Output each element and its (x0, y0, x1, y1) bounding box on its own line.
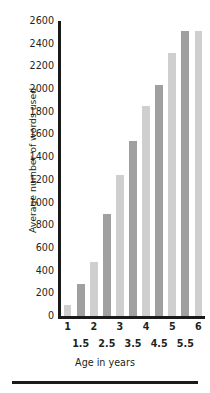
x-axis-title: Age in years (0, 357, 210, 368)
y-axis-tick-label: 800 (14, 220, 54, 230)
bar (155, 85, 163, 316)
bar (103, 214, 111, 316)
y-axis-tick-label: 2200 (14, 61, 54, 71)
x-axis-tick-label: 4 (132, 322, 160, 332)
y-axis-tick-label: 1800 (14, 107, 54, 117)
y-axis-tick-label: 2000 (14, 84, 54, 94)
x-axis-tick-label: 2 (80, 322, 108, 332)
x-axis-tick-label: 2.5 (93, 339, 121, 349)
bar (195, 31, 203, 316)
y-axis-tick-label: 600 (14, 243, 54, 253)
y-axis-tick-label: 200 (14, 288, 54, 298)
bar (181, 31, 189, 316)
y-axis-tick-label: 2400 (14, 39, 54, 49)
y-axis-tick-label: 2600 (14, 16, 54, 26)
bar (168, 53, 176, 316)
y-axis-tick-label: 1400 (14, 152, 54, 162)
x-axis-tick-label: 4.5 (145, 339, 173, 349)
y-axis-tick-label: 400 (14, 266, 54, 276)
x-axis-tick-label: 1 (54, 322, 82, 332)
bar (77, 284, 85, 316)
bottom-divider-rule (12, 381, 198, 384)
bar-series (61, 21, 205, 316)
y-axis-tick-label: 1200 (14, 175, 54, 185)
x-axis-tick-label: 3.5 (119, 339, 147, 349)
y-axis-tick-label: 0 (14, 311, 54, 321)
plot-area (58, 21, 205, 319)
x-axis-line (58, 316, 205, 319)
x-axis-tick-label: 5.5 (171, 339, 199, 349)
x-axis-tick-label: 1.5 (67, 339, 95, 349)
x-axis-tick-label: 3 (106, 322, 134, 332)
bar (142, 106, 150, 316)
bar (64, 305, 72, 316)
x-axis-tick-label: 6 (184, 322, 210, 332)
y-axis-tick-label: 1600 (14, 129, 54, 139)
bar (90, 262, 98, 316)
x-axis-tick-label: 5 (158, 322, 186, 332)
bar (129, 141, 137, 316)
bar (116, 175, 124, 316)
y-axis-tick-label: 1000 (14, 198, 54, 208)
bar-chart-figure: Average number of words used 02004006008… (0, 0, 210, 393)
